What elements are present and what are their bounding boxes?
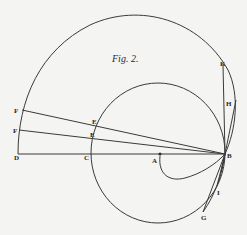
figure-title: Fig. 2.: [111, 53, 138, 64]
label-H: H: [226, 100, 232, 108]
line-BG: [203, 154, 225, 212]
label-I: I: [217, 189, 220, 197]
inner-circle: [91, 83, 225, 223]
figure-canvas: Fig. 2. K H F F E E D C A B I G: [0, 0, 247, 235]
label-F-upper: F: [14, 107, 18, 115]
label-A: A: [152, 157, 157, 165]
label-G: G: [201, 214, 207, 222]
line-FB-upper: [22, 110, 225, 154]
label-E-upper: E: [92, 118, 97, 126]
line-HB: [225, 100, 236, 154]
label-K: K: [220, 60, 226, 68]
point-A-marker: [159, 153, 162, 156]
label-C: C: [84, 154, 89, 162]
label-E-lower: E: [90, 131, 95, 139]
label-B: B: [227, 152, 232, 160]
inner-loop-curve: [160, 154, 225, 179]
geometry-figure: Fig. 2. K H F F E E D C A B I G: [0, 0, 247, 235]
label-F-lower: F: [13, 127, 17, 135]
line-FB-lower: [19, 130, 225, 154]
label-D: D: [14, 154, 19, 162]
